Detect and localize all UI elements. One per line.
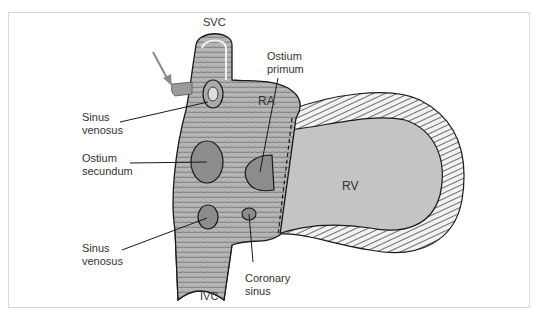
sinus-venosus-lower bbox=[198, 205, 218, 229]
heart-diagram bbox=[0, 0, 540, 317]
label-coronary-sinus: Coronary sinus bbox=[245, 272, 290, 298]
label-rv: RV bbox=[342, 180, 358, 193]
label-sinus-venosus-upper: Sinus venosus bbox=[82, 111, 123, 137]
label-ostium-secundum: Ostium secundum bbox=[82, 152, 133, 178]
label-ivc: IVC bbox=[200, 290, 218, 303]
arrow-head bbox=[163, 74, 172, 86]
label-svc: SVC bbox=[203, 16, 226, 29]
label-sinus-venosus-lower: Sinus venosus bbox=[82, 242, 123, 268]
label-ostium-primum: Ostium primum bbox=[267, 50, 304, 76]
label-ra: RA bbox=[258, 95, 275, 108]
side-vessel bbox=[171, 82, 192, 96]
arrow-line bbox=[153, 52, 168, 80]
